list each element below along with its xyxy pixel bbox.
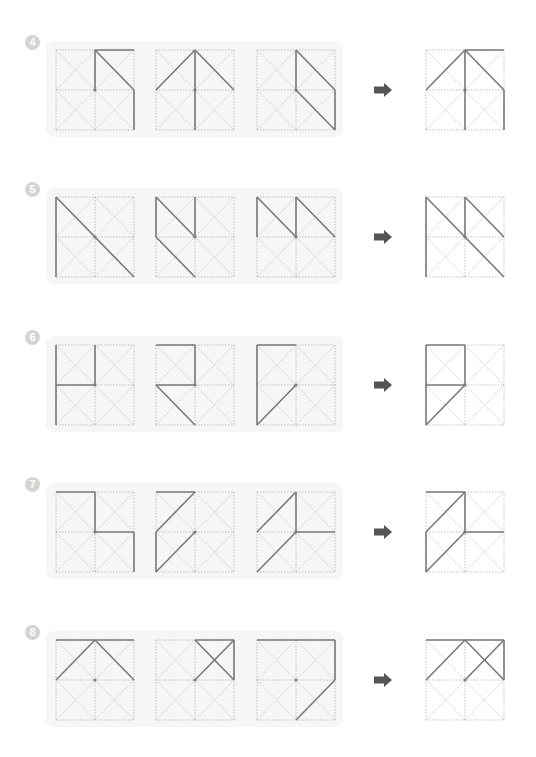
sequence-grid-2 [155,491,233,571]
right-arrow-icon [374,673,392,687]
answer-grid [425,49,503,129]
sequence-grid-1 [55,49,133,129]
sequence-grid-2 [155,196,233,276]
sequence-grid-2 [155,49,233,129]
answer-grid [425,196,503,276]
question-number-badge: 7 [25,477,40,492]
sequence-grid-2 [155,344,233,424]
right-arrow-icon [374,378,392,392]
sequence-grid-3 [256,344,334,424]
sequence-grid-2 [155,639,233,719]
question-number-badge: 4 [25,35,40,50]
question-number-badge: 8 [25,625,40,640]
question-number-badge: 6 [25,330,40,345]
sequence-grid-1 [55,639,133,719]
right-arrow-icon [374,525,392,539]
sequence-grid-1 [55,344,133,424]
answer-grid [425,344,503,424]
sequence-grid-3 [256,491,334,571]
answer-grid [425,491,503,571]
question-number-badge: 5 [25,182,40,197]
right-arrow-icon [374,83,392,97]
right-arrow-icon [374,230,392,244]
answer-grid [425,639,503,719]
sequence-grid-3 [256,49,334,129]
sequence-grid-3 [256,639,334,719]
sequence-grid-3 [256,196,334,276]
sequence-grid-1 [55,491,133,571]
sequence-grid-1 [55,196,133,276]
